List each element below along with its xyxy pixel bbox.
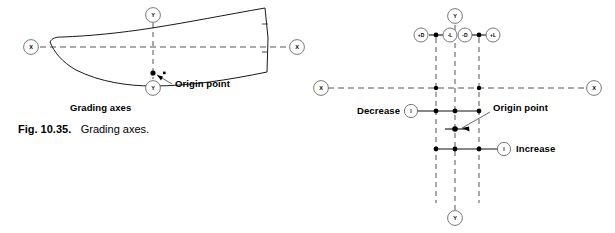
decrease-label: Decrease bbox=[357, 105, 400, 116]
dot-increase-center bbox=[453, 147, 458, 152]
axis-node-x-left-label: X bbox=[29, 44, 33, 50]
dot-increase-left bbox=[434, 147, 439, 152]
node-increase-increment: I bbox=[497, 142, 510, 155]
dot-xaxis-right bbox=[477, 86, 481, 90]
figure-caption: Fig. 10.35. Grading axes. bbox=[18, 119, 149, 136]
axis-node-y-bottom: Y bbox=[448, 211, 463, 226]
node-minus-l-label: -L bbox=[448, 32, 453, 38]
dot-top-right bbox=[477, 33, 482, 38]
figure-caption-text: Grading axes. bbox=[81, 123, 149, 135]
axis-node-y-top-label: Y bbox=[453, 13, 457, 19]
origin-point-label: Origin point bbox=[493, 102, 549, 113]
grading-axes-subtitle: Grading axes bbox=[70, 102, 131, 113]
origin-point-dot bbox=[150, 70, 155, 75]
axis-node-x-left: X bbox=[314, 81, 329, 96]
node-plus-d: +D bbox=[414, 28, 428, 42]
pattern-lower-edge bbox=[50, 42, 267, 86]
node-plus-l-label: +L bbox=[490, 32, 496, 38]
origin-point-label: Origin point bbox=[175, 78, 231, 89]
node-decrease-increment: I bbox=[404, 104, 417, 117]
origin-leader-arrowhead bbox=[157, 75, 163, 81]
dot-decrease-center bbox=[453, 109, 458, 114]
origin-companion-mark bbox=[163, 72, 166, 75]
origin-point-dot bbox=[452, 126, 458, 132]
axis-node-x-right-label: X bbox=[295, 44, 299, 50]
axis-node-y-top: Y bbox=[448, 9, 463, 24]
node-minus-d: -D bbox=[458, 28, 472, 42]
dot-increase-right bbox=[477, 147, 482, 152]
figure-grading-axes: X X Y Y Origin point Grading axes bbox=[0, 0, 615, 233]
figure-caption-prefix: Fig. 10.35. bbox=[18, 123, 71, 135]
dot-decrease-left bbox=[434, 109, 439, 114]
right-diagram-svg: +D -L -D +L Y bbox=[300, 0, 615, 233]
right-diagram-panel: +D -L -D +L Y bbox=[300, 0, 615, 233]
axis-node-y-bottom: Y bbox=[146, 81, 161, 96]
axis-node-y-bottom-label: Y bbox=[151, 85, 155, 91]
node-minus-d-label: -D bbox=[462, 32, 468, 38]
dot-xaxis-left bbox=[434, 86, 438, 90]
axis-node-y-top-label: Y bbox=[151, 12, 155, 18]
left-diagram-panel: X X Y Y Origin point Grading axes bbox=[0, 0, 310, 233]
node-plus-l: +L bbox=[486, 28, 500, 42]
left-diagram-svg: X X Y Y Origin point Grading axes bbox=[0, 0, 310, 233]
axis-node-x-left: X bbox=[24, 40, 39, 55]
axis-node-y-top: Y bbox=[146, 8, 161, 23]
axis-node-x-right: X bbox=[587, 81, 602, 96]
node-plus-d-label: +D bbox=[418, 32, 425, 38]
axis-node-y-bottom-label: Y bbox=[453, 215, 457, 221]
dot-top-left bbox=[434, 33, 439, 38]
node-minus-l: -L bbox=[443, 28, 457, 42]
axis-node-x-left-label: X bbox=[319, 85, 323, 91]
axis-node-x-right-label: X bbox=[592, 85, 596, 91]
dot-decrease-right bbox=[477, 109, 482, 114]
origin-leader-line bbox=[462, 112, 490, 128]
increase-label: Increase bbox=[516, 143, 555, 154]
pattern-right-edge bbox=[265, 8, 268, 72]
